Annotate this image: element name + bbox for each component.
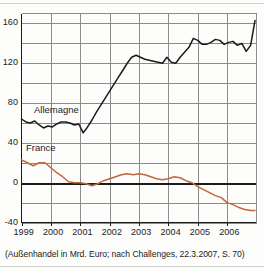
chart-figure: 160 120 80 40 0 -40 1999 2000 2001 2002 … [0, 0, 264, 271]
x-tick-label: 2003 [131, 227, 151, 237]
series-line-france [22, 160, 256, 211]
grid-vertical-lines [52, 14, 228, 223]
x-tick-label: 2006 [219, 227, 239, 237]
series-paths [22, 20, 256, 210]
allemagne-series-label: Allemagne [34, 104, 79, 115]
y-tick-label: 160 [0, 17, 18, 27]
y-tick-label: 120 [0, 57, 18, 67]
y-tick-label: 40 [0, 137, 18, 147]
y-tick-label: 0 [0, 177, 18, 187]
x-tick-label: 2000 [43, 227, 63, 237]
x-tick-label: 2002 [102, 227, 122, 237]
chart-caption: (Außenhandel in Mrd. Euro; nach Challeng… [5, 249, 245, 259]
x-tick-label: 2005 [190, 227, 210, 237]
france-series-label: France [26, 142, 56, 153]
y-tick-label: 80 [0, 97, 18, 107]
series-line-allemagne [22, 20, 256, 132]
x-tick-label: 1999 [14, 227, 34, 237]
y-tick-label: -40 [0, 217, 18, 227]
x-tick-label: 2001 [72, 227, 92, 237]
x-tick-label: 2004 [160, 227, 180, 237]
